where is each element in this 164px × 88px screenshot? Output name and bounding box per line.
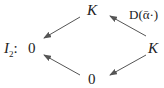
edge-top-to-left: [44, 17, 80, 38]
node-right: K: [148, 41, 158, 56]
node-left: 0: [28, 41, 36, 56]
node-top: K: [87, 3, 97, 18]
node-bottom: 0: [88, 72, 96, 87]
edge-label-d-alpha: D(ᾱ·): [129, 8, 158, 21]
edge-right-to-bottom: [110, 55, 146, 75]
diagram-label: I2:: [4, 41, 18, 62]
edge-bottom-to-left: [44, 55, 80, 75]
